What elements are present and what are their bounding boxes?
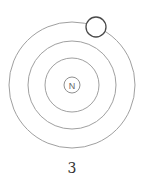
electron [86,17,106,37]
nucleus-label: N [69,81,76,91]
diagram-caption: 3 [0,160,144,176]
atom-diagram: N [0,0,144,179]
